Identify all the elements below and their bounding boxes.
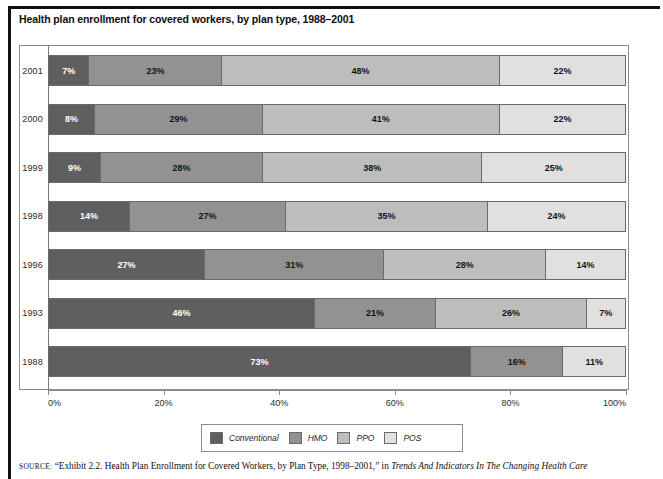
bar-segment[interactable]: 28% <box>100 152 262 183</box>
bar-segment[interactable]: 28% <box>383 249 545 280</box>
bar-row: 19999%28%38%25% <box>19 146 629 189</box>
legend-label: Conventional <box>229 433 279 443</box>
bar-segment[interactable]: 26% <box>435 298 585 329</box>
x-axis-tick-label: 100% <box>603 398 626 408</box>
bar-segment[interactable]: 22% <box>499 104 626 135</box>
x-axis-tick-mark <box>395 390 396 395</box>
figure-container: Health plan enrollment for covered worke… <box>0 0 663 479</box>
bar-segment[interactable]: 11% <box>562 346 626 377</box>
frame-left-rule <box>8 6 11 479</box>
bar-segment[interactable]: 9% <box>48 152 100 183</box>
bar-segment[interactable]: 31% <box>204 249 383 280</box>
x-axis-tick-mark <box>48 390 49 395</box>
plot-area: 20017%23%48%22%20008%29%41%22%19999%28%3… <box>19 45 629 390</box>
legend-label: POS <box>403 433 421 443</box>
bar-row-year-label: 1996 <box>19 260 43 270</box>
bar-row: 199627%31%28%14% <box>19 243 629 286</box>
x-axis-tick-label: 0% <box>48 398 61 408</box>
x-axis-tick-label: 20% <box>155 398 173 408</box>
bar-segment[interactable]: 46% <box>48 298 314 329</box>
bar-row-year-label: 2000 <box>19 114 43 124</box>
bar-track: 14%27%35%24% <box>48 201 626 232</box>
legend-label: PPO <box>356 433 374 443</box>
bar-row-year-label: 1998 <box>19 211 43 221</box>
legend-item[interactable]: POS <box>384 432 421 444</box>
x-axis-tick-mark <box>510 390 511 395</box>
legend-swatch-icon <box>210 432 223 444</box>
bar-track: 27%31%28%14% <box>48 249 626 280</box>
bar-segment[interactable]: 24% <box>487 201 626 232</box>
x-axis: 0%20%40%60%80%100% <box>48 390 626 414</box>
bar-row-year-label: 1993 <box>19 308 43 318</box>
bar-segment[interactable]: 7% <box>48 55 88 86</box>
bar-track: 46%21%26%7% <box>48 298 626 329</box>
legend-item[interactable]: HMO <box>289 432 328 444</box>
bar-row-year-label: 1999 <box>19 163 43 173</box>
bar-row: 199346%21%26%7% <box>19 292 629 335</box>
source-note: SOURCE: “Exhibit 2.2. Health Plan Enroll… <box>19 461 659 473</box>
legend-swatch-icon <box>337 432 350 444</box>
legend-item[interactable]: PPO <box>337 432 374 444</box>
x-axis-tick-label: 60% <box>386 398 404 408</box>
bar-row: 20017%23%48%22% <box>19 49 629 92</box>
legend-swatch-icon <box>384 432 397 444</box>
source-label: SOURCE: <box>19 462 52 471</box>
bar-track: 73%16%11% <box>48 346 626 377</box>
x-axis-tick-label: 40% <box>270 398 288 408</box>
bar-segment[interactable]: 8% <box>48 104 94 135</box>
x-axis-line <box>48 390 626 391</box>
bar-row-year-label: 2001 <box>19 66 43 76</box>
bar-row-year-label: 1988 <box>19 357 43 367</box>
bar-segment[interactable]: 16% <box>470 346 562 377</box>
x-axis-tick-mark <box>626 390 627 395</box>
bar-segment[interactable]: 27% <box>48 249 204 280</box>
x-axis-tick-mark <box>279 390 280 395</box>
bar-segment[interactable]: 22% <box>499 55 626 86</box>
bar-track: 7%23%48%22% <box>48 55 626 86</box>
x-axis-tick-mark <box>164 390 165 395</box>
source-publication-title: Trends And Indicators In The Changing He… <box>391 461 587 471</box>
bar-row: 20008%29%41%22% <box>19 98 629 141</box>
bar-segment[interactable]: 27% <box>129 201 285 232</box>
bar-segment[interactable]: 35% <box>285 201 487 232</box>
x-axis-tick-label: 80% <box>501 398 519 408</box>
legend-item[interactable]: Conventional <box>210 432 279 444</box>
bar-segment[interactable]: 25% <box>481 152 626 183</box>
bar-row: 198873%16%11% <box>19 340 629 383</box>
bar-segment[interactable]: 23% <box>88 55 221 86</box>
legend-label: HMO <box>308 433 328 443</box>
chart-title: Health plan enrollment for covered worke… <box>19 13 354 25</box>
legend-swatch-icon <box>289 432 302 444</box>
source-text: “Exhibit 2.2. Health Plan Enrollment for… <box>52 461 391 471</box>
bar-segment[interactable]: 29% <box>94 104 262 135</box>
bar-segment[interactable]: 14% <box>48 201 129 232</box>
bar-segment[interactable]: 38% <box>262 152 482 183</box>
bar-track: 9%28%38%25% <box>48 152 626 183</box>
bar-row: 199814%27%35%24% <box>19 195 629 238</box>
chart-legend: ConventionalHMOPPOPOS <box>201 424 463 452</box>
bar-segment[interactable]: 7% <box>586 298 626 329</box>
frame-top-rule <box>8 6 660 9</box>
bar-segment[interactable]: 14% <box>545 249 626 280</box>
bar-track: 8%29%41%22% <box>48 104 626 135</box>
bar-segment[interactable]: 48% <box>221 55 498 86</box>
bar-segment[interactable]: 21% <box>314 298 435 329</box>
bar-segment[interactable]: 41% <box>262 104 499 135</box>
bar-segment[interactable]: 73% <box>48 346 470 377</box>
